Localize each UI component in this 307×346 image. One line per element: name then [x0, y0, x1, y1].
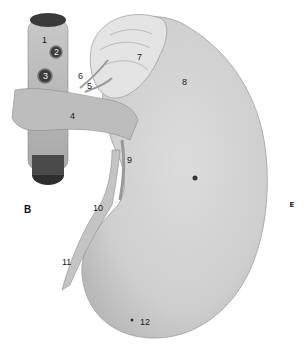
label-1: 1 [42, 36, 47, 45]
label-9: 9 [127, 156, 132, 165]
panel-label: B [24, 204, 31, 215]
label-11: 11 [62, 258, 71, 267]
label-12: 12 [140, 318, 150, 327]
label-3: 3 [43, 72, 48, 81]
label-2: 2 [54, 48, 59, 57]
label-10: 10 [93, 204, 103, 213]
label-5: 5 [87, 82, 92, 91]
label-8: 8 [182, 78, 187, 87]
label-6: 6 [78, 72, 83, 81]
kidney-specimen-figure: 1 2 3 4 5 6 7 8 9 10 11 12 B L E F T [0, 0, 307, 346]
kidney-illustration [0, 0, 307, 346]
label-7: 7 [137, 53, 142, 62]
label-4: 4 [70, 112, 75, 121]
